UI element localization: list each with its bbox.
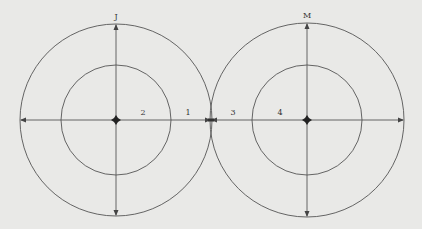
right-center-cross-icon [302, 115, 312, 125]
segment-label-4: 4 [277, 109, 282, 117]
tangent-junction-marker [208, 119, 214, 122]
segment-label-1: 1 [185, 109, 190, 117]
segment-label-2: 2 [140, 109, 145, 117]
segment-label-3: 3 [230, 109, 235, 117]
right-top-label: M [303, 12, 311, 20]
diagram-canvas: J M 2 1 3 4 [0, 0, 422, 229]
concentric-circles-diagram [0, 0, 422, 229]
left-top-label: J [114, 13, 117, 21]
left-center-cross-icon [111, 115, 121, 125]
